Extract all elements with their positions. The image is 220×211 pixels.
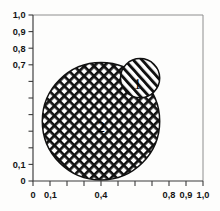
plot-figure: 2 1 1,0 0,9 0,8 0,7 0,1 0 — [0, 0, 220, 211]
y-axis-labels: 1,0 0,9 0,8 0,7 0,1 0 — [13, 10, 26, 186]
y-tick-label-0-8: 0,8 — [13, 44, 26, 54]
y-tick-label-0: 0 — [20, 176, 25, 186]
y-tick-label-0-7: 0,7 — [13, 60, 26, 70]
y-tick-label-0-9: 0,9 — [13, 27, 26, 37]
x-tick-label-0-1: 0,1 — [44, 190, 57, 200]
x-tick-label-0-8: 0,8 — [163, 190, 176, 200]
x-tick-label-1-0: 1,0 — [197, 190, 210, 200]
region-1-label: 1 — [134, 76, 142, 92]
region-2-label: 2 — [97, 119, 105, 135]
plot-canvas: 2 1 1,0 0,9 0,8 0,7 0,1 0 — [0, 0, 220, 211]
y-axis-ticks — [29, 15, 34, 181]
y-tick-label-1-0: 1,0 — [13, 10, 26, 20]
y-tick-label-0-1: 0,1 — [13, 160, 26, 170]
x-tick-label-0: 0 — [30, 190, 35, 200]
x-tick-label-0-4: 0,4 — [95, 190, 109, 200]
x-axis-labels: 0 0,1 0,4 0,8 0,9 1,0 — [30, 190, 209, 200]
x-axis-ticks — [33, 181, 203, 186]
x-tick-label-0-9: 0,9 — [180, 190, 193, 200]
